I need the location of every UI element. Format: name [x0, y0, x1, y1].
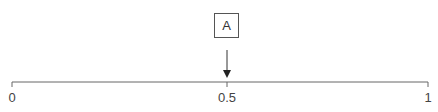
- marker-label: A: [222, 18, 231, 33]
- tick-label-0-5: 0.5: [218, 90, 236, 105]
- tick-label-0: 0: [8, 90, 15, 105]
- marker-box-a: A: [214, 13, 239, 38]
- tick-label-1: 1: [424, 90, 431, 105]
- down-arrow-icon: [223, 50, 231, 78]
